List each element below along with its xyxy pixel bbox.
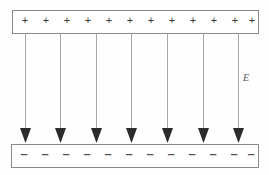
plus-charge-3: + — [64, 14, 70, 26]
minus-charge-1: – — [20, 146, 27, 161]
field-label-E: E — [242, 72, 249, 83]
plus-charge-4: + — [85, 14, 91, 26]
plus-charge-5: + — [106, 14, 112, 26]
minus-charge-6: – — [125, 146, 132, 161]
plus-charge-6: + — [127, 14, 133, 26]
electric-field-diagram: ++++++++++++––––––––––––E — [0, 0, 269, 175]
minus-charge-5: – — [104, 146, 111, 161]
minus-charge-10: – — [209, 146, 216, 161]
plus-charge-10: + — [211, 14, 217, 26]
minus-charge-12: – — [247, 146, 254, 161]
plus-charge-9: + — [190, 14, 196, 26]
plus-charge-12: + — [249, 14, 255, 26]
minus-charge-8: – — [167, 146, 174, 161]
field-line-3 — [91, 33, 102, 143]
plus-charge-7: + — [148, 14, 154, 26]
field-line-7 — [233, 33, 244, 143]
field-line-arrowhead-7 — [233, 128, 244, 143]
minus-charge-11: – — [230, 146, 237, 161]
field-line-2 — [55, 33, 66, 143]
field-line-arrowhead-1 — [20, 128, 31, 143]
field-line-arrowhead-2 — [55, 128, 66, 143]
field-line-6 — [198, 33, 209, 143]
field-line-arrowhead-5 — [162, 128, 173, 143]
minus-charge-4: – — [83, 146, 90, 161]
top-plate — [13, 11, 259, 34]
field-line-arrowhead-6 — [198, 128, 209, 143]
diagram-canvas: ++++++++++++––––––––––––E — [0, 0, 269, 175]
top-plate-outline — [13, 11, 259, 34]
plus-charge-1: + — [22, 14, 28, 26]
field-line-arrowhead-4 — [126, 128, 137, 143]
plus-charge-8: + — [169, 14, 175, 26]
field-line-5 — [162, 33, 173, 143]
field-lines — [20, 33, 244, 143]
minus-charge-3: – — [62, 146, 69, 161]
minus-charge-2: – — [41, 146, 48, 161]
minus-charge-7: – — [146, 146, 153, 161]
field-line-4 — [126, 33, 137, 143]
plus-charge-2: + — [43, 14, 49, 26]
plus-charge-11: + — [232, 14, 238, 26]
field-line-arrowhead-3 — [91, 128, 102, 143]
minus-charge-9: – — [188, 146, 195, 161]
field-line-1 — [20, 33, 31, 143]
